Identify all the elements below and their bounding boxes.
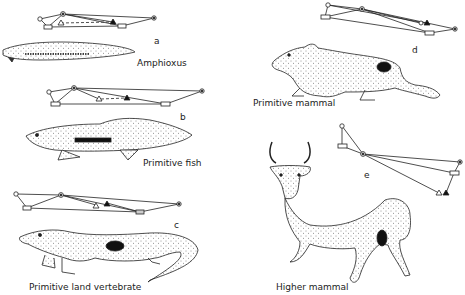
caption-amphioxus: Amphioxus [137,58,187,68]
diagram-a [38,12,156,29]
diagram-c [14,192,181,214]
evolution-figure: a Amphioxus b Primitive fish c Primitive… [0,0,465,295]
diagram-b [47,86,204,106]
panel-letter-c: c [174,220,179,230]
panel-letter-d: d [412,45,418,55]
caption-higher-mammal: Higher mammal [276,282,349,292]
caption-primitive-land-vertebrate: Primitive land vertebrate [29,282,141,292]
diagram-d [321,3,457,35]
caption-primitive-fish: Primitive fish [143,158,202,168]
figure-drawing [0,0,465,295]
panel-letter-a: a [154,36,160,46]
panel-letter-e: e [364,170,370,180]
caption-primitive-mammal: Primitive mammal [253,98,335,108]
fish-drawing [26,118,192,160]
amphioxus-drawing [3,42,135,62]
higher-mammal-drawing [270,142,411,282]
diagram-e [338,124,462,195]
panel-letter-b: b [180,112,186,122]
land-vertebrate-drawing [19,230,198,282]
